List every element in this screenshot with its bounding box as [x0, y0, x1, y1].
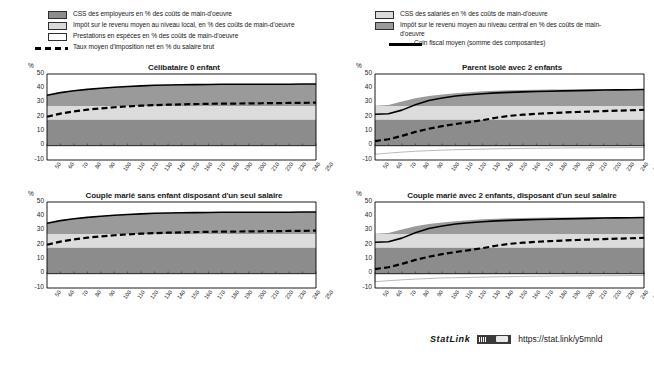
x-axis-tick-label: 230 — [297, 289, 307, 300]
x-axis-tick-label: 220 — [612, 289, 622, 300]
y-axis-tick-label: 50 — [37, 70, 44, 77]
x-axis-tick-label: 220 — [612, 161, 622, 172]
x-axis-tick-label: 60 — [67, 161, 75, 170]
legend-column-right: CSS des salariés en % des coûts de main-… — [375, 10, 650, 50]
x-axis-tick-label: 130 — [163, 161, 173, 172]
x-axis-tick-label: 120 — [477, 161, 487, 172]
chart-title: Célibataire 0 enfant — [46, 63, 322, 72]
legend-item: CSS des salariés en % des coûts de main-… — [375, 10, 650, 20]
x-axis-tick-label: 200 — [585, 161, 595, 172]
x-axis-tick-label: 100 — [450, 289, 460, 300]
x-axis-tick-label: 80 — [94, 161, 102, 170]
legend-swatch — [48, 33, 67, 41]
x-axis-tick-label: 50 — [54, 161, 62, 170]
x-axis-tick-label: 140 — [176, 289, 186, 300]
x-axis-tick-label: 240 — [639, 289, 649, 300]
y-axis-tick-label: 0 — [368, 141, 372, 148]
x-axis-tick-label: 140 — [504, 289, 514, 300]
x-axis-tick-label: 120 — [149, 289, 159, 300]
x-axis-tick-label: 120 — [149, 161, 159, 172]
x-axis-tick-label: 60 — [67, 289, 75, 298]
x-axis-tick-label: 170 — [216, 161, 226, 172]
x-axis-tick-label: 170 — [216, 289, 226, 300]
y-axis-labels: 50403020100-10 — [352, 198, 372, 290]
x-axis-tick-label: 200 — [257, 289, 267, 300]
y-axis-tick-label: 10 — [37, 127, 44, 134]
x-axis-tick-label: 180 — [230, 289, 240, 300]
y-axis-tick-label: 20 — [365, 113, 372, 120]
y-axis-tick-label: 20 — [37, 241, 44, 248]
plot-area — [374, 73, 643, 159]
x-axis-tick-label: 90 — [107, 289, 115, 298]
y-axis-tick-label: 0 — [40, 141, 44, 148]
x-axis-tick-label: 80 — [422, 161, 430, 170]
x-axis-tick-label: 50 — [382, 289, 390, 298]
area-employer-ssc — [47, 120, 316, 146]
x-axis-tick-label: 90 — [107, 161, 115, 170]
y-axis-tick-label: 40 — [365, 84, 372, 91]
chart-panel: %Couple marié avec 2 enfants, disposant … — [330, 190, 652, 320]
plot-area — [46, 201, 315, 287]
area-employee-ssc — [375, 234, 644, 248]
legend-item: CSS des employeurs en % des coûts de mai… — [48, 10, 348, 20]
x-axis-tick-label: 230 — [297, 161, 307, 172]
x-axis-tick-label: 130 — [491, 161, 501, 172]
x-axis-tick-label: 200 — [257, 161, 267, 172]
y-axis-tick-label: 30 — [37, 98, 44, 105]
x-axis-tick-label: 240 — [311, 289, 321, 300]
x-axis-tick-label: 50 — [382, 161, 390, 170]
figure-footer: StatLink https://stat.link/y5mnld — [0, 334, 654, 352]
x-axis-tick-label: 50 — [54, 289, 62, 298]
x-axis-labels: 5060708090100110120130140150160170180190… — [46, 289, 318, 317]
x-axis-tick-label: 90 — [435, 161, 443, 170]
x-axis-labels: 5060708090100110120130140150160170180190… — [374, 289, 646, 317]
legend-dashed-line-icon — [48, 44, 67, 52]
y-axis-tick-label: 10 — [37, 255, 44, 262]
statlink-label: StatLink — [430, 334, 470, 344]
y-axis-tick-label: 30 — [37, 226, 44, 233]
y-axis-unit-label: % — [356, 62, 362, 69]
x-axis-tick-label: 70 — [409, 161, 417, 170]
x-axis-tick-label: 80 — [94, 289, 102, 298]
figure-root: CSS des employeurs en % des coûts de mai… — [0, 0, 654, 369]
y-axis-tick-label: 50 — [365, 198, 372, 205]
y-axis-tick-label: -10 — [363, 156, 372, 163]
x-axis-tick-label: 140 — [504, 161, 514, 172]
x-axis-tick-label: 210 — [598, 161, 608, 172]
x-axis-tick-label: 110 — [463, 289, 473, 300]
area-employee-ssc — [47, 106, 316, 120]
legend-swatch — [375, 22, 394, 30]
y-axis-labels: 50403020100-10 — [352, 70, 372, 162]
legend-label: Taux moyen d'imposition net en % du sala… — [73, 43, 214, 52]
x-axis-tick-label: 150 — [517, 289, 527, 300]
area-employer-ssc — [47, 248, 316, 274]
legend-label: Impôt sur le revenu moyen au niveau cent… — [400, 21, 625, 38]
x-axis-tick-label: 120 — [477, 289, 487, 300]
statlink[interactable]: StatLink https://stat.link/y5mnld — [430, 334, 602, 344]
x-axis-tick-label: 220 — [284, 289, 294, 300]
chart-panel: %Célibataire 0 enfant50403020100-1050607… — [2, 62, 324, 192]
legend-swatch — [375, 11, 394, 19]
x-axis-tick-label: 180 — [558, 289, 568, 300]
x-axis-tick-label: 150 — [189, 289, 199, 300]
x-axis-labels: 5060708090100110120130140150160170180190… — [374, 161, 646, 189]
x-axis-tick-label: 130 — [163, 289, 173, 300]
x-axis-tick-label: 170 — [544, 289, 554, 300]
chart-legend: CSS des employeurs en % des coûts de mai… — [0, 10, 654, 62]
legend-item: Impôt sur le revenu moyen au niveau loca… — [48, 21, 348, 31]
x-axis-tick-label: 100 — [122, 161, 132, 172]
y-axis-labels: 50403020100-10 — [24, 198, 44, 290]
y-axis-labels: 50403020100-10 — [24, 70, 44, 162]
legend-swatch — [48, 22, 67, 30]
x-axis-tick-label: 190 — [243, 289, 253, 300]
x-axis-tick-label: 170 — [544, 161, 554, 172]
legend-swatch — [48, 11, 67, 19]
y-axis-tick-label: 20 — [37, 113, 44, 120]
x-axis-tick-label: 220 — [284, 161, 294, 172]
x-axis-tick-label: 110 — [135, 289, 145, 300]
statlink-url[interactable]: https://stat.link/y5mnld — [518, 334, 602, 344]
x-axis-tick-label: 180 — [558, 161, 568, 172]
legend-item: Taux moyen d'imposition net en % du sala… — [48, 43, 348, 53]
legend-column-left: CSS des employeurs en % des coûts de mai… — [48, 10, 348, 54]
y-axis-tick-label: 40 — [37, 212, 44, 219]
